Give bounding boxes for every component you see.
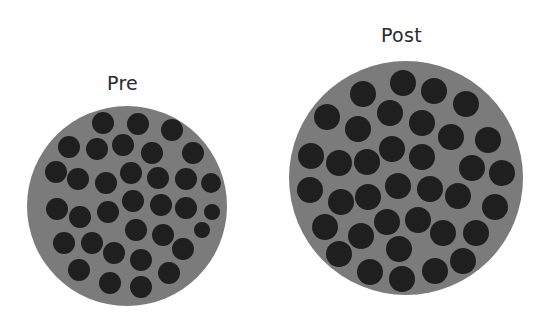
dot [377,100,403,126]
dot [312,214,338,240]
dot [409,144,435,170]
dot [409,110,435,136]
dot [194,222,210,238]
dot [92,112,114,134]
dot [58,136,80,158]
dot [328,189,354,215]
dot [326,150,352,176]
dot [161,119,183,141]
dot [459,155,485,181]
dot [445,183,471,209]
dot [489,160,515,186]
dot [158,262,180,284]
dot [147,167,169,189]
dot [379,136,405,162]
dot [46,198,68,220]
dot [53,232,75,254]
dot [348,223,374,249]
dot [201,173,221,193]
dot [97,201,119,223]
dot [482,194,508,220]
dot [390,70,416,96]
dot [385,173,411,199]
dot [204,204,220,220]
dot [386,236,412,262]
dot [152,224,174,246]
dot [463,220,489,246]
dot [81,232,103,254]
comparison-diagram [0,0,544,328]
dot [374,209,400,235]
dot [141,142,163,164]
dot [130,249,152,271]
dot [405,207,431,233]
dot [172,238,194,260]
dot [127,113,149,135]
dot [314,104,340,130]
dot [354,149,380,175]
post-label: Post [381,24,422,46]
dot [112,134,134,156]
dot [422,258,448,284]
pre-panel [27,106,227,306]
post-panel [289,61,523,295]
dot [120,162,142,184]
dot [68,259,90,281]
dot [450,248,476,274]
dot [86,138,108,160]
dot [297,177,323,203]
dot [430,220,456,246]
dot [150,194,172,216]
dot [69,206,91,228]
pre-label: Pre [107,72,138,94]
dot [357,259,383,285]
dot [45,161,67,183]
dot [130,276,152,298]
dot [99,272,121,294]
dot [453,91,479,117]
dot [350,81,376,107]
dot [175,168,197,190]
dot [417,176,443,202]
dot [345,116,371,142]
dot [175,197,197,219]
dot [438,124,464,150]
dot [475,127,501,153]
dot [326,241,352,267]
dot [122,190,144,212]
dot [125,219,147,241]
dot [389,266,415,292]
dot [298,143,324,169]
dot [103,242,125,264]
dot [421,78,447,104]
dot [182,142,204,164]
dot [95,172,117,194]
dot [355,184,381,210]
dot [67,168,89,190]
